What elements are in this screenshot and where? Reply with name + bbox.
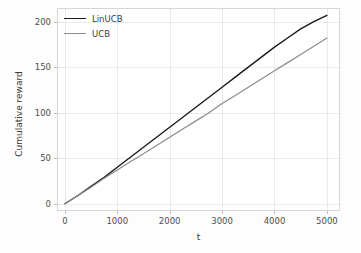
chart-legend: LinUCBUCB (64, 13, 122, 39)
x-tick-label: 5000 (316, 216, 338, 226)
legend-line-swatch (64, 33, 86, 34)
legend-entry-linucb[interactable]: LinUCB (64, 13, 122, 24)
x-tick-label: 0 (62, 216, 67, 226)
y-tick-label: 200 (13, 17, 51, 27)
y-tickmark (54, 158, 57, 159)
chart-figure: 010002000300040005000 050100150200 t Cum… (0, 0, 361, 253)
x-tickmark (222, 211, 223, 214)
legend-entry-ucb[interactable]: UCB (64, 28, 122, 39)
x-axis-label: t (57, 232, 340, 242)
y-tickmark (54, 22, 57, 23)
x-tickmark (170, 211, 171, 214)
series-line-linucb (65, 15, 327, 203)
legend-label: UCB (92, 29, 110, 39)
x-tickmark (274, 211, 275, 214)
x-tickmark (327, 211, 328, 214)
y-tickmark (54, 67, 57, 68)
y-tickmark (54, 113, 57, 114)
legend-label: LinUCB (92, 14, 122, 24)
x-tickmark (65, 211, 66, 214)
y-axis-label: Cumulative reward (14, 54, 24, 174)
x-tick-label: 4000 (264, 216, 286, 226)
y-tickmark (54, 204, 57, 205)
y-tick-label: 0 (13, 199, 51, 209)
x-tick-label: 3000 (211, 216, 233, 226)
x-tick-label: 2000 (159, 216, 181, 226)
legend-line-swatch (64, 18, 86, 19)
series-line-ucb (65, 38, 327, 204)
x-tick-label: 1000 (106, 216, 128, 226)
x-tickmark (117, 211, 118, 214)
